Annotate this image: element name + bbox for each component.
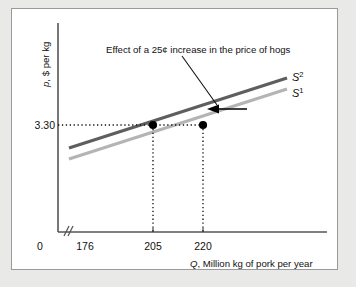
curve-label-s2-superscript: 2: [299, 70, 303, 79]
y-tick-label-330: 3.30: [35, 119, 56, 131]
x-tick-label-205: 205: [144, 240, 162, 252]
datapoint-s2-205: [149, 121, 157, 129]
x-axis-title: Q, Million kg of pork per year: [190, 258, 313, 269]
axis-break-icon: [64, 226, 73, 236]
figure-root: 3.30 0 176 205 220 Effect of a 25¢ incre…: [0, 0, 356, 287]
curve-label-s1-superscript: 1: [299, 86, 303, 95]
figure-panel: 3.30 0 176 205 220 Effect of a 25¢ incre…: [11, 8, 338, 270]
x-tick-label-176: 176: [76, 240, 94, 252]
datapoint-s1-220: [199, 121, 207, 129]
x-tick-label-220: 220: [194, 240, 212, 252]
y-axis-title: p, $ per kg: [40, 42, 51, 88]
x-axis-title-rest: , Million kg of pork per year: [197, 258, 313, 269]
supply-curve-s1: [69, 89, 287, 159]
supply-curve-chart: 3.30 0 176 205 220 Effect of a 25¢ incre…: [12, 9, 337, 269]
annotation-label: Effect of a 25¢ increase in the price of…: [106, 44, 291, 55]
curve-label-s1: S1: [292, 86, 304, 100]
curve-label-s2: S2: [292, 70, 304, 84]
y-axis-title-rest: , $ per kg: [40, 42, 51, 82]
supply-curve-s2: [69, 78, 287, 148]
annotation-leader-line: [182, 56, 217, 105]
x-tick-label-0: 0: [37, 240, 43, 252]
